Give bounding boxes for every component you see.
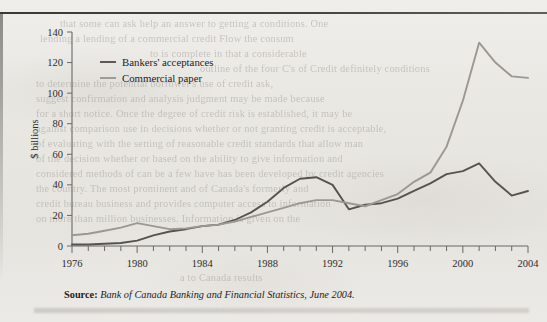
x-tick-label: 2000 (452, 258, 473, 269)
line-chart-figure: 0204060801001201401976198019841988199219… (0, 14, 547, 284)
x-tick-label: 1988 (257, 258, 278, 269)
x-tick-label: 1976 (62, 258, 83, 269)
y-tick-label: 80 (53, 118, 64, 129)
x-tick-label: 1980 (127, 258, 148, 269)
figure-source-note: Source: Bank of Canada Banking and Finan… (64, 289, 355, 300)
chart-axes: 0204060801001201401976198019841988199219… (29, 27, 539, 269)
chart-legend: Bankers' acceptancesCommercial paper (100, 56, 214, 84)
y-tick-label: 140 (47, 27, 63, 38)
source-citation: Bank of Canada Banking and Financial Sta… (100, 289, 355, 300)
y-tick-label: 100 (47, 88, 63, 99)
x-tick-label: 1996 (387, 258, 408, 269)
y-tick-label: 0 (58, 241, 63, 252)
page-bottom-smudge (34, 308, 529, 313)
legend-label-2: Commercial paper (122, 72, 202, 84)
x-tick-label: 1984 (192, 258, 214, 269)
y-tick-label: 40 (53, 179, 64, 190)
y-tick-label: 60 (53, 149, 64, 160)
y-axis-title: $ billions (29, 119, 40, 158)
chart-svg: 0204060801001201401976198019841988199219… (0, 14, 547, 284)
x-tick-label: 2004 (518, 258, 540, 269)
source-label: Source: (64, 289, 98, 300)
y-tick-label: 120 (47, 57, 63, 68)
y-tick-label: 20 (53, 210, 64, 221)
x-tick-label: 1992 (322, 258, 343, 269)
legend-label-1: Bankers' acceptances (122, 56, 214, 68)
